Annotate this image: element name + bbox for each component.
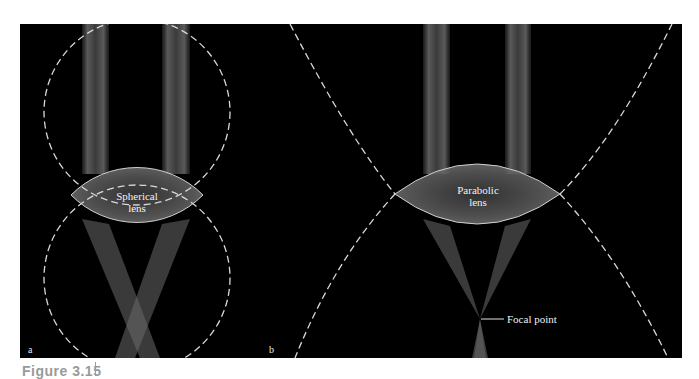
parabolic-lens-label: Parabolic lens [438, 184, 518, 208]
lens-label-line2: lens [97, 202, 177, 214]
incoming-beam-left [82, 24, 109, 174]
spherical-lens-label: Spherical lens [97, 190, 177, 214]
incoming-beam-right [162, 24, 190, 174]
caption-divider [95, 362, 96, 376]
refracted-beam-left [423, 219, 486, 358]
refracted-beam-right [474, 219, 531, 358]
incoming-beam-left [423, 24, 450, 174]
lens-label-line1: Parabolic [438, 184, 518, 196]
lens-label-line2: lens [438, 196, 518, 208]
incoming-beam-right [505, 24, 531, 174]
panel-letter-b: b [269, 345, 274, 355]
lens-label-line1: Spherical [97, 190, 177, 202]
figure-caption: Figure 3.15 [22, 364, 101, 378]
focal-point-label: Focal point [507, 313, 557, 325]
figure-panel: Spherical lens a Parabolic lens Focal po… [20, 24, 682, 358]
panel-letter-a: a [28, 345, 32, 355]
